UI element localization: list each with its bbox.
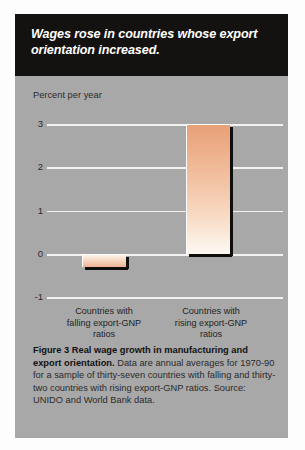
y-tick-label-1: 1 bbox=[27, 205, 43, 216]
x-axis-label-0: Countries withfalling export-GNPratios bbox=[48, 306, 160, 340]
bar-shadow-bottom bbox=[189, 254, 232, 257]
bar-shadow-right bbox=[230, 127, 233, 256]
y-tick-label--1: -1 bbox=[27, 291, 43, 302]
gridline--1 bbox=[47, 297, 283, 299]
x-axis-label-line: falling export-GNP bbox=[48, 318, 160, 329]
y-tick-label-3: 3 bbox=[27, 118, 43, 129]
bar-1 bbox=[186, 124, 230, 254]
gridline-1 bbox=[47, 211, 283, 213]
x-axis-label-line: ratios bbox=[48, 329, 160, 340]
figure-panel: Wages rose in countries whose export ori… bbox=[15, 14, 288, 438]
x-axis-label-line: rising export-GNP bbox=[155, 318, 267, 329]
y-tick-label-2: 2 bbox=[27, 161, 43, 172]
y-tick-label-0: 0 bbox=[27, 248, 43, 259]
bar-0 bbox=[82, 254, 126, 267]
bar-shadow-bottom bbox=[85, 267, 128, 270]
x-axis-label-1: Countries withrising export-GNPratios bbox=[155, 306, 267, 340]
x-axis-label-line: Countries with bbox=[155, 306, 267, 317]
figure-root: Wages rose in countries whose export ori… bbox=[0, 0, 305, 450]
headline-banner: Wages rose in countries whose export ori… bbox=[15, 14, 288, 76]
headline-line-1: Wages rose in countries whose export bbox=[31, 27, 275, 43]
chart-plot-area: Percent per year 3210-1 Countries withfa… bbox=[15, 76, 288, 296]
gridline-3 bbox=[47, 124, 283, 126]
gridline-2 bbox=[47, 167, 283, 169]
x-axis-label-line: Countries with bbox=[48, 306, 160, 317]
headline: Wages rose in countries whose export ori… bbox=[31, 27, 275, 58]
figure-caption: Figure 3 Real wage growth in manufacturi… bbox=[33, 344, 277, 407]
x-axis-label-line: ratios bbox=[155, 329, 267, 340]
y-axis-title: Percent per year bbox=[33, 90, 102, 100]
headline-line-2: orientation increased. bbox=[31, 43, 275, 59]
